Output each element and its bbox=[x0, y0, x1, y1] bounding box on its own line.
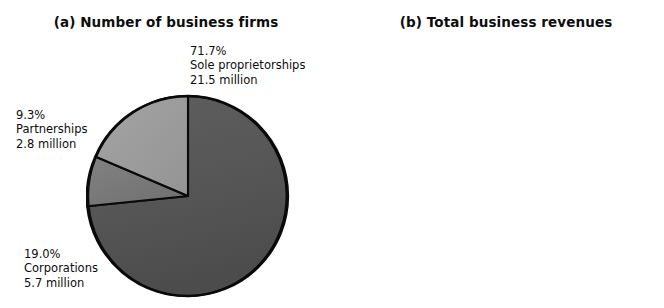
panel-total-business-revenues: (b) Total business revenues bbox=[332, 0, 664, 308]
pie-a-label-sole-name: Sole proprietorships bbox=[190, 58, 305, 72]
pie-a-label-partnerships-name: Partnerships bbox=[16, 122, 88, 136]
panel-a-title: (a) Number of business firms bbox=[0, 14, 332, 30]
pie-a-label-partnerships: 9.3% Partnerships 2.8 million bbox=[16, 108, 88, 151]
pie-chart-a bbox=[86, 93, 290, 299]
pie-a-label-corporations: 19.0% Corporations 5.7 million bbox=[24, 247, 98, 290]
pie-a-label-corporations-value: 5.7 million bbox=[24, 276, 98, 290]
pie-a-label-partnerships-value: 2.8 million bbox=[16, 137, 88, 151]
pie-a-label-sole-percent: 71.7% bbox=[190, 44, 305, 58]
pie-a-label-corporations-name: Corporations bbox=[24, 261, 98, 275]
pie-a-label-partnerships-percent: 9.3% bbox=[16, 108, 88, 122]
figure-root: (a) Number of business firms bbox=[0, 0, 664, 308]
pie-a-label-sole-proprietorships: 71.7% Sole proprietorships 21.5 million bbox=[190, 44, 305, 87]
pie-a-label-corporations-percent: 19.0% bbox=[24, 247, 98, 261]
panel-number-of-business-firms: (a) Number of business firms bbox=[0, 0, 332, 308]
panel-b-title: (b) Total business revenues bbox=[340, 14, 664, 30]
pie-a-label-sole-value: 21.5 million bbox=[190, 73, 305, 87]
